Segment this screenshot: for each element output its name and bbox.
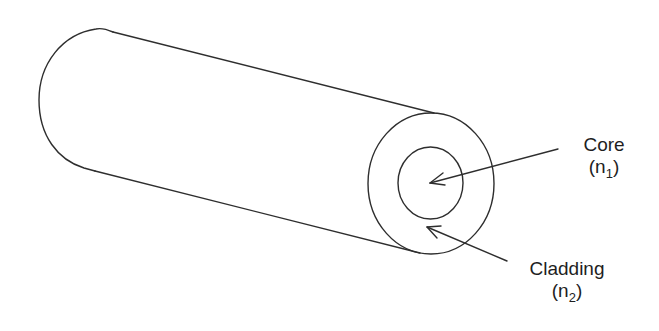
cladding-index-symbol: n	[558, 280, 569, 301]
cladding-title: Cladding	[512, 258, 622, 280]
cladding-refractive-index: (n2)	[512, 280, 622, 304]
core-label: Core (n1)	[566, 134, 642, 180]
core-index-symbol: n	[595, 156, 606, 177]
cladding-label: Cladding (n2)	[512, 258, 622, 304]
cylinder-bottom-edge	[95, 171, 420, 253]
cladding-index-subscript: 2	[569, 290, 576, 305]
cylinder-top-edge	[113, 32, 434, 113]
cladding-pointer-arrow	[427, 226, 507, 261]
core-refractive-index: (n1)	[566, 156, 642, 180]
core-title: Core	[566, 134, 642, 156]
cylinder-left-end-arc	[39, 29, 113, 171]
core-index-subscript: 1	[606, 166, 613, 181]
fiber-cylinder-body	[39, 29, 434, 253]
